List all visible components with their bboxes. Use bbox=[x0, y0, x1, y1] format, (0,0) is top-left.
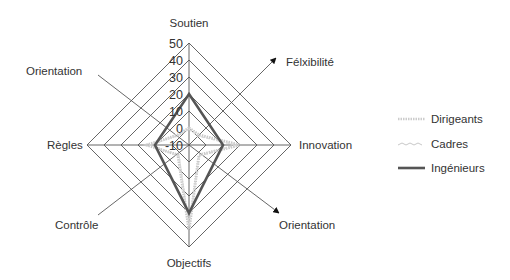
label-orientation-se: Orientation bbox=[279, 219, 335, 231]
legend-cadres-swatch bbox=[398, 143, 422, 145]
legend-dirigeants: Dirigeants bbox=[431, 113, 483, 125]
label-regles: Règles bbox=[47, 139, 83, 151]
flexibilite-arrow bbox=[189, 58, 276, 145]
tick-minus-10: -10 bbox=[165, 139, 183, 153]
label-controle: Contrôle bbox=[55, 219, 98, 231]
tick-40: 40 bbox=[169, 54, 183, 68]
label-flexibilite: Félxibilité bbox=[286, 56, 334, 68]
legend-ingenieurs: Ingénieurs bbox=[431, 162, 485, 174]
legend: Dirigeants Cadres Ingénieurs bbox=[398, 113, 485, 174]
chart-canvas: 50 40 30 20 10 0 -10 Soutien Félxibilité… bbox=[0, 0, 510, 280]
tick-30: 30 bbox=[169, 71, 183, 85]
tick-20: 20 bbox=[169, 88, 183, 102]
tick-labels: 50 40 30 20 10 0 -10 bbox=[165, 37, 183, 153]
tick-10: 10 bbox=[169, 105, 183, 119]
label-soutien: Soutien bbox=[169, 17, 208, 29]
label-innovation: Innovation bbox=[299, 139, 352, 151]
label-objectifs: Objectifs bbox=[167, 257, 212, 269]
axes bbox=[87, 43, 291, 247]
legend-cadres: Cadres bbox=[431, 138, 468, 150]
radar-chart: 50 40 30 20 10 0 -10 Soutien Félxibilité… bbox=[0, 0, 510, 280]
tick-50: 50 bbox=[169, 37, 183, 51]
label-orientation-nw: Orientation bbox=[26, 65, 82, 77]
tick-0: 0 bbox=[176, 122, 183, 136]
